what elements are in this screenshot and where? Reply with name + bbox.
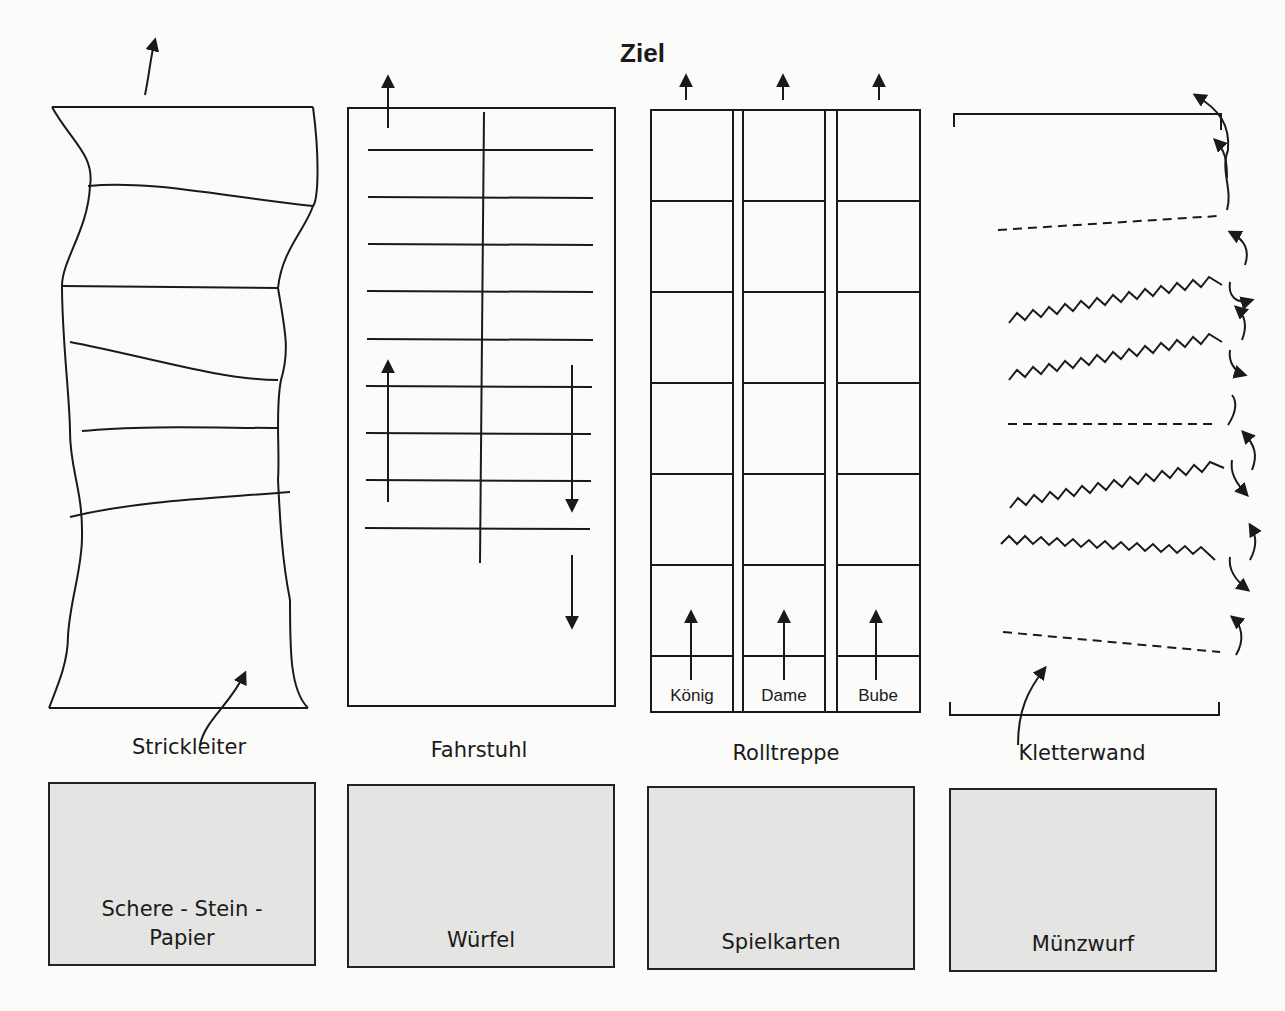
game-card-label: Spielkarten: [721, 928, 840, 956]
lane-label-bube: Bube: [839, 686, 917, 706]
track-label-strickleiter: Strickleiter: [79, 735, 299, 759]
game-card-label: Würfel: [447, 926, 515, 954]
game-card-schere-stein-papier[interactable]: Schere - Stein - Papier: [48, 782, 316, 966]
rolltreppe-escalator: [651, 76, 920, 712]
game-card-wuerfel[interactable]: Würfel: [347, 784, 615, 968]
lane-label-dame: Dame: [745, 686, 823, 706]
fahrstuhl-elevator: [348, 77, 615, 706]
lane-label-koenig: König: [653, 686, 731, 706]
game-card-label: Münzwurf: [1032, 930, 1134, 958]
game-card-muenzwurf[interactable]: Münzwurf: [949, 788, 1217, 972]
track-label-kletterwand: Kletterwand: [972, 741, 1192, 765]
kletterwand-climbing-wall: [950, 95, 1255, 745]
game-card-spielkarten[interactable]: Spielkarten: [647, 786, 915, 970]
strickleiter-ladder: [49, 40, 318, 745]
track-label-fahrstuhl: Fahrstuhl: [369, 738, 589, 762]
game-card-label: Schere - Stein - Papier: [101, 895, 262, 952]
track-label-rolltreppe: Rolltreppe: [676, 741, 896, 765]
